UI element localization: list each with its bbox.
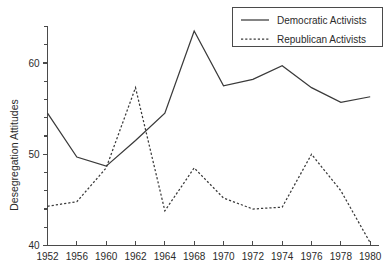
x-tick-label: 1978 [330, 251, 353, 262]
x-tick-label: 1964 [154, 251, 177, 262]
chart-container: Desegregation Attitudes 405060 195219561… [0, 0, 386, 269]
chart-legend: Democratic ActivistsRepublican Activists [233, 8, 383, 47]
x-tick-label: 1970 [212, 251, 235, 262]
x-tick-label: 1968 [183, 251, 206, 262]
series-layer [48, 31, 371, 243]
legend-label-2: Republican Activists [277, 34, 366, 45]
y-tick-label: 60 [28, 58, 40, 69]
x-tick-label: 1962 [124, 251, 147, 262]
x-tick-label: 1952 [36, 251, 59, 262]
x-tick-label: 1974 [271, 251, 294, 262]
x-axis-ticks: 1952195619601962196419681970197219741976… [36, 241, 381, 262]
y-tick-label: 50 [28, 149, 40, 160]
x-tick-label: 1960 [95, 251, 118, 262]
legend-label-1: Democratic Activists [277, 15, 366, 26]
y-tick-label: 40 [28, 240, 40, 251]
series-line-2 [48, 88, 371, 243]
y-axis-title: Desegregation Attitudes [8, 99, 20, 211]
y-axis-ticks: 405060 [28, 27, 47, 252]
x-tick-label: 1956 [66, 251, 89, 262]
x-tick-label: 1972 [242, 251, 265, 262]
line-chart: Desegregation Attitudes 405060 195219561… [0, 0, 386, 269]
x-tick-label: 1980 [359, 251, 382, 262]
series-line-1 [48, 31, 371, 166]
x-tick-label: 1976 [300, 251, 323, 262]
